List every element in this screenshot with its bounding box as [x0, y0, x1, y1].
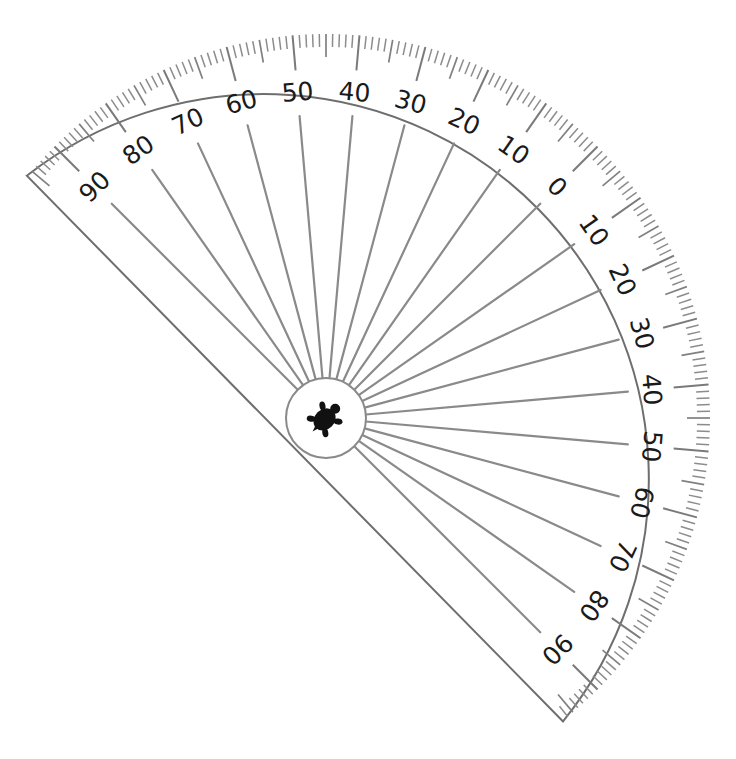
degree-tick [665, 262, 677, 267]
degree-tick [657, 586, 669, 592]
degree-label: 10 [573, 209, 615, 252]
degree-tick [593, 676, 602, 685]
degree-tick [90, 115, 98, 125]
degree-tick [434, 51, 438, 63]
degree-tick [397, 41, 399, 54]
degree-tick [100, 107, 108, 118]
degree-tick [602, 666, 612, 675]
degree-label: 10 [492, 129, 535, 171]
degree-tick [654, 238, 665, 244]
degree-label: 40 [636, 372, 668, 406]
degree-label: 30 [624, 314, 660, 352]
degree-tick [626, 636, 637, 644]
degree-tick [618, 182, 628, 190]
degree-tick [679, 533, 691, 537]
degree-tick [140, 82, 146, 93]
degree-tick [579, 137, 588, 147]
degree-tick [473, 70, 488, 102]
degree-tick [273, 38, 275, 51]
degree-tick [634, 625, 645, 632]
degree-label: 40 [337, 76, 371, 108]
degree-tick [672, 551, 684, 556]
degree-tick [500, 79, 506, 90]
degree-tick [637, 209, 648, 216]
degree-tick [634, 203, 645, 210]
degree-tick [614, 651, 624, 659]
degree-label: 0 [541, 171, 573, 203]
degree-tick [356, 35, 359, 70]
degree-tick [683, 520, 695, 524]
degree-tick [681, 306, 693, 310]
degree-tick [494, 76, 500, 88]
degree-tick [428, 49, 432, 61]
degree-tick [233, 45, 236, 58]
degree-tick [682, 481, 705, 485]
degree-tick [687, 332, 700, 335]
degree-tick [365, 36, 366, 49]
degree-tick [549, 111, 557, 121]
degree-tick [641, 215, 652, 222]
degree-tick [164, 70, 179, 102]
degree-tick [220, 49, 224, 61]
degree-tick [614, 176, 624, 184]
protractor-figure: 9080706050403020100102030405060708090 [0, 0, 736, 759]
degree-tick [687, 501, 700, 504]
degree-tick [253, 41, 255, 54]
degree-tick [584, 142, 593, 151]
degree-tick [299, 35, 300, 48]
degree-tick [146, 79, 152, 90]
degree-tick [696, 444, 709, 445]
degree-tick [622, 641, 632, 649]
degree-tick [554, 115, 562, 125]
degree-tick [389, 40, 393, 63]
degree-tick [696, 391, 709, 392]
degree-tick [158, 73, 164, 85]
degree-tick [665, 287, 687, 295]
degree-tick [240, 44, 243, 57]
degree-tick [259, 40, 263, 63]
degree-tick [74, 128, 83, 138]
degree-tick [477, 67, 482, 79]
degree-tick [111, 100, 118, 111]
degree-tick [214, 51, 218, 63]
degree-tick [690, 345, 703, 347]
degree-tick [606, 661, 616, 670]
degree-tick [606, 166, 616, 175]
degree-tick [384, 39, 386, 52]
degree-tick [695, 457, 708, 458]
degree-tick [569, 128, 578, 138]
degree-tick [246, 42, 249, 55]
degree-tick [528, 96, 535, 107]
degree-tick [447, 55, 451, 67]
degree-tick [637, 620, 648, 627]
degree-tick [416, 45, 419, 58]
degree-tick [293, 35, 296, 70]
degree-tick [441, 53, 445, 65]
degree-tick [465, 62, 470, 74]
degree-tick [670, 274, 682, 279]
degree-tick [279, 37, 281, 50]
degree-tick [657, 244, 669, 250]
degree-tick [69, 133, 78, 143]
degree-tick [670, 557, 682, 562]
degree-tick [686, 325, 699, 328]
degree-tick [696, 398, 709, 399]
degree-label: 20 [444, 102, 485, 142]
degree-tick [677, 539, 689, 543]
degree-tick [170, 67, 175, 79]
degree-tick [117, 96, 124, 107]
degree-tick [207, 53, 211, 65]
degree-label: 20 [602, 259, 642, 300]
degree-tick [644, 220, 655, 227]
degree-tick [95, 111, 103, 121]
degree-tick [686, 508, 699, 511]
degree-tick [672, 280, 684, 285]
degree-tick [574, 133, 583, 143]
degree-tick [526, 103, 546, 132]
degree-tick [692, 358, 705, 360]
degree-tick [152, 76, 158, 88]
degree-tick [681, 526, 693, 530]
degree-tick [674, 385, 709, 388]
degree-tick [352, 35, 353, 48]
degree-tick [689, 495, 702, 498]
